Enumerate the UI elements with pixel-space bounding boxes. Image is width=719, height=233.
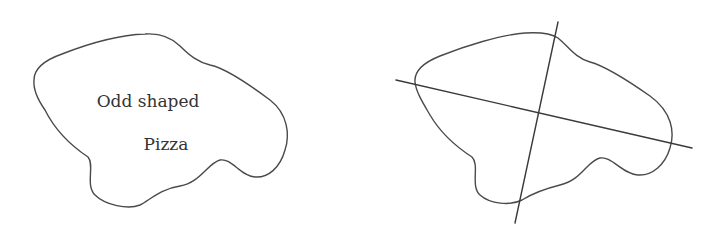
- pizza-label-line2: Pizza: [144, 134, 189, 154]
- right-pizza-group: [396, 22, 692, 223]
- diagram-canvas: Odd shaped Pizza: [0, 0, 719, 233]
- left-pizza-outline: [34, 34, 287, 207]
- left-pizza-group: Odd shaped Pizza: [34, 34, 287, 207]
- right-pizza-outline: [415, 33, 672, 204]
- diagram-svg: Odd shaped Pizza: [0, 0, 719, 233]
- pizza-label-line1: Odd shaped: [97, 91, 200, 111]
